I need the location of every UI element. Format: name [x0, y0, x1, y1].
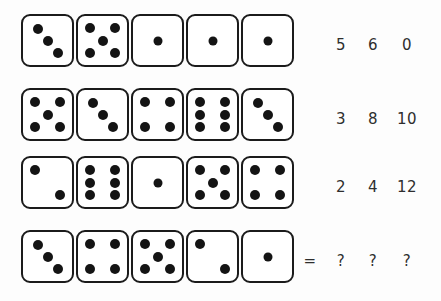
die-pip-icon	[30, 97, 40, 107]
die-pip-icon	[85, 264, 95, 274]
die-pip-icon	[165, 97, 175, 107]
die-pip-icon	[110, 264, 120, 274]
row-number-value: 2	[325, 156, 357, 218]
die-pip-icon	[253, 98, 263, 108]
die-face-3[interactable]	[21, 14, 74, 67]
die-face-3[interactable]	[76, 88, 129, 141]
die-pip-icon	[220, 264, 230, 274]
row-number-value: 5	[325, 14, 357, 76]
die-pip-icon	[108, 122, 118, 132]
die-pip-icon	[30, 122, 40, 132]
die-pip-icon	[153, 252, 163, 262]
die-face-1[interactable]	[241, 230, 294, 283]
die-pip-icon	[195, 110, 205, 120]
die-pip-icon	[220, 122, 230, 132]
die-face-1[interactable]	[131, 14, 184, 67]
die-face-3[interactable]	[241, 88, 294, 141]
dice-group	[21, 14, 294, 67]
row-number-value: 3	[325, 88, 357, 150]
die-face-1[interactable]	[186, 14, 239, 67]
die-pip-icon	[153, 178, 162, 187]
puzzle-row: 560	[0, 14, 441, 76]
die-pip-icon	[195, 190, 205, 200]
answer-placeholder: ?	[391, 230, 423, 292]
die-pip-icon	[220, 190, 230, 200]
die-face-2[interactable]	[21, 156, 74, 209]
die-pip-icon	[220, 110, 230, 120]
die-pip-icon	[43, 36, 53, 46]
die-pip-icon	[208, 178, 218, 188]
die-pip-icon	[153, 36, 162, 45]
die-face-1[interactable]	[241, 14, 294, 67]
die-pip-icon	[85, 23, 95, 33]
die-face-1[interactable]	[131, 156, 184, 209]
die-pip-icon	[275, 165, 285, 175]
die-face-4[interactable]	[131, 88, 184, 141]
die-pip-icon	[55, 190, 65, 200]
die-face-5[interactable]	[21, 88, 74, 141]
puzzle-row: =???	[0, 230, 441, 292]
die-pip-icon	[165, 264, 175, 274]
die-face-6[interactable]	[76, 156, 129, 209]
die-face-5[interactable]	[186, 156, 239, 209]
answer-placeholder: ?	[357, 230, 389, 292]
row-number-value: 0	[391, 14, 423, 76]
die-face-5[interactable]	[131, 230, 184, 283]
die-pip-icon	[85, 48, 95, 58]
die-pip-icon	[110, 178, 120, 188]
die-pip-icon	[98, 36, 108, 46]
die-pip-icon	[220, 97, 230, 107]
die-pip-icon	[140, 122, 150, 132]
dice-group	[21, 156, 294, 209]
die-pip-icon	[263, 252, 272, 261]
row-number-value: 8	[357, 88, 389, 150]
die-pip-icon	[85, 165, 95, 175]
puzzle-row: 3810	[0, 88, 441, 150]
die-pip-icon	[85, 239, 95, 249]
die-pip-icon	[140, 239, 150, 249]
die-pip-icon	[55, 122, 65, 132]
die-pip-icon	[140, 264, 150, 274]
die-pip-icon	[273, 122, 283, 132]
die-pip-icon	[263, 36, 272, 45]
die-pip-icon	[250, 165, 260, 175]
row-number-value: 12	[391, 156, 423, 218]
die-pip-icon	[195, 97, 205, 107]
die-pip-icon	[165, 122, 175, 132]
die-pip-icon	[140, 97, 150, 107]
answer-placeholder: ?	[325, 230, 357, 292]
puzzle-row: 2412	[0, 156, 441, 218]
row-number-value: 4	[357, 156, 389, 218]
dice-group	[21, 88, 294, 141]
die-pip-icon	[165, 239, 175, 249]
die-pip-icon	[43, 110, 53, 120]
die-pip-icon	[53, 48, 63, 58]
die-pip-icon	[33, 24, 43, 34]
die-pip-icon	[110, 48, 120, 58]
die-pip-icon	[263, 110, 273, 120]
die-pip-icon	[53, 264, 63, 274]
die-pip-icon	[110, 239, 120, 249]
die-pip-icon	[88, 98, 98, 108]
die-face-4[interactable]	[241, 156, 294, 209]
die-face-2[interactable]	[186, 230, 239, 283]
die-face-6[interactable]	[186, 88, 239, 141]
die-pip-icon	[275, 190, 285, 200]
die-pip-icon	[33, 240, 43, 250]
die-pip-icon	[195, 165, 205, 175]
dice-puzzle-canvas: 56038102412=???	[0, 0, 441, 301]
die-pip-icon	[208, 36, 217, 45]
die-face-4[interactable]	[76, 230, 129, 283]
die-face-3[interactable]	[21, 230, 74, 283]
row-number-value: 10	[391, 88, 423, 150]
die-pip-icon	[55, 97, 65, 107]
die-pip-icon	[195, 239, 205, 249]
die-pip-icon	[43, 252, 53, 262]
die-pip-icon	[110, 165, 120, 175]
die-pip-icon	[250, 190, 260, 200]
die-pip-icon	[110, 23, 120, 33]
die-pip-icon	[30, 165, 40, 175]
die-pip-icon	[85, 190, 95, 200]
die-pip-icon	[195, 122, 205, 132]
die-face-5[interactable]	[76, 14, 129, 67]
